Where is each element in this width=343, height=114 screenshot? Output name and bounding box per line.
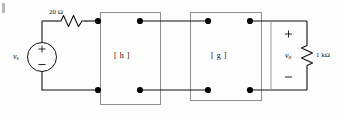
load-resistor-value-label: 1 kΩ (316, 52, 330, 59)
node-dot-h-port1-minus (95, 87, 101, 93)
node-dot-h-port1-plus (95, 18, 101, 24)
source-plus-glyph (39, 46, 46, 53)
output-voltage-label: vo (285, 52, 291, 61)
output-plus-glyph (285, 31, 292, 38)
node-dot-g-port2-minus (247, 87, 253, 93)
two-port-block-h-outline (101, 13, 161, 105)
block-g-label: [ g ] (211, 52, 227, 60)
node-dot-g-port1-minus (205, 87, 211, 93)
circuit-diagram: vs 20 Ω [ h ] [ g ] vo 1 kΩ (0, 0, 343, 114)
series-resistor-value-label: 20 Ω (49, 9, 63, 16)
load-resistor-1kohm-symbol (302, 43, 313, 68)
block-h-label: [ h ] (114, 52, 130, 60)
node-dot-g-port1-plus (205, 18, 211, 24)
node-dot-g-port2-plus (247, 18, 253, 24)
series-resistor-20ohm-symbol (58, 16, 86, 27)
node-dot-h-port2-minus (137, 87, 143, 93)
circuit-schematic-canvas (0, 0, 343, 114)
source-label: vs (13, 53, 19, 62)
node-dot-h-port2-plus (137, 18, 143, 24)
